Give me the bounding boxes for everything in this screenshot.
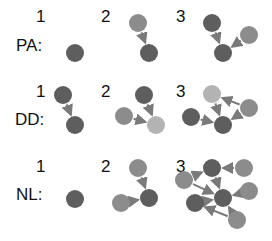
graph-node bbox=[228, 211, 246, 229]
graph-node bbox=[175, 171, 193, 189]
edge-arrow bbox=[131, 200, 138, 201]
edge-arrow bbox=[215, 177, 219, 187]
graph-node bbox=[135, 86, 153, 104]
edge-arrow bbox=[232, 41, 241, 47]
graph-node bbox=[235, 159, 253, 177]
edge-arrow bbox=[201, 119, 213, 122]
graph-node bbox=[240, 99, 258, 117]
edge-arrow bbox=[222, 98, 239, 105]
graph-node bbox=[140, 189, 158, 207]
graph-node bbox=[214, 44, 232, 62]
edge-arrow bbox=[141, 32, 145, 42]
edge-arrow bbox=[234, 194, 240, 196]
edge-arrow bbox=[67, 104, 71, 115]
graph-node bbox=[129, 14, 147, 32]
graph-node bbox=[112, 194, 130, 212]
graph-diagram bbox=[0, 0, 272, 241]
graph-node bbox=[240, 182, 258, 200]
edge-arrow bbox=[148, 104, 152, 115]
graph-node bbox=[182, 108, 200, 126]
graph-node bbox=[147, 116, 165, 134]
edge-arrow bbox=[134, 119, 146, 122]
edge-arrow bbox=[215, 32, 219, 42]
graph-node bbox=[240, 26, 258, 44]
graph-node bbox=[214, 189, 232, 207]
graph-node bbox=[66, 44, 84, 62]
graph-node bbox=[54, 86, 72, 104]
graph-node bbox=[186, 194, 204, 212]
edge-arrow bbox=[229, 207, 232, 211]
edge-arrow bbox=[193, 184, 213, 193]
edge-arrow bbox=[215, 103, 219, 114]
edge-arrow bbox=[193, 172, 202, 176]
edge-arrow bbox=[205, 207, 228, 216]
graph-node bbox=[115, 107, 133, 125]
edge-arrow bbox=[205, 200, 212, 201]
graph-node bbox=[203, 14, 221, 32]
nodes-layer bbox=[54, 14, 258, 229]
graph-node bbox=[66, 190, 84, 208]
graph-node bbox=[140, 44, 158, 62]
graph-node bbox=[214, 116, 232, 134]
graph-node bbox=[203, 159, 221, 177]
edge-arrow bbox=[141, 177, 145, 187]
edge-arrow bbox=[232, 113, 240, 119]
graph-node bbox=[203, 85, 221, 103]
graph-node bbox=[66, 116, 84, 134]
graph-node bbox=[129, 159, 147, 177]
